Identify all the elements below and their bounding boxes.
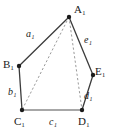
edge-b1-line xyxy=(19,66,22,110)
edge-label-d1: d₁ xyxy=(84,91,92,101)
pentagon-diagram: A₁ B₁ C₁ D₁ E₁ a₁ b₁ c₁ d₁ e₁ xyxy=(0,0,116,134)
diagonal-a1d1-line xyxy=(69,17,82,110)
edge-label-e1: e₁ xyxy=(84,35,92,45)
vertex-dot-d1 xyxy=(80,108,84,112)
vertex-label-d1: D₁ xyxy=(78,116,90,127)
vertex-label-a1: A₁ xyxy=(74,4,86,15)
vertex-dot-a1 xyxy=(67,15,71,19)
vertex-label-b1: B₁ xyxy=(3,59,14,70)
edge-a1-line xyxy=(19,17,69,66)
edge-e1-line xyxy=(69,17,93,75)
vertex-dot-b1 xyxy=(17,64,21,68)
vertex-label-e1: E₁ xyxy=(95,66,106,77)
vertex-dot-c1 xyxy=(20,108,24,112)
vertex-label-c1: C₁ xyxy=(14,116,25,127)
edge-label-c1: c₁ xyxy=(49,117,57,127)
edge-label-a1: a₁ xyxy=(26,29,34,39)
edge-label-b1: b₁ xyxy=(8,87,16,97)
